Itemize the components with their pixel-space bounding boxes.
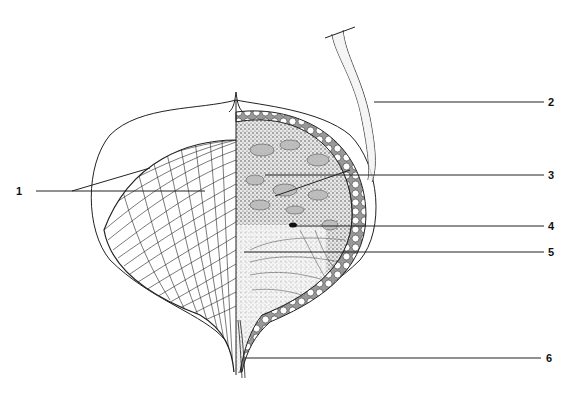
label-6: 6 <box>546 352 552 364</box>
bladder-diagram: 1 2 3 4 5 6 <box>0 0 577 400</box>
label-1: 1 <box>16 185 22 197</box>
ureteric-orifice <box>289 223 297 228</box>
label-3: 3 <box>548 169 554 181</box>
label-5: 5 <box>548 246 554 258</box>
diagram-artwork <box>0 0 577 400</box>
label-2: 2 <box>548 96 554 108</box>
label-4: 4 <box>548 220 554 232</box>
